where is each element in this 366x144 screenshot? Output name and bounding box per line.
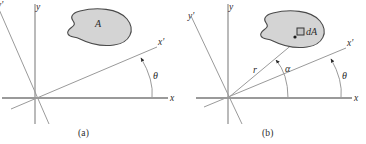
panel-a-y-prime-axis	[0, 7, 49, 124]
panel-b-y-axis-label: y	[228, 2, 234, 12]
panel-b-caption: (b)	[262, 128, 274, 138]
panel-b: y x x' y' dA r α θ	[187, 2, 359, 124]
panel-a-caption: (a)	[78, 128, 89, 138]
panel-b-x-axis-label: x	[353, 93, 359, 103]
panel-b-theta-arc	[331, 59, 341, 98]
panel-a-y-prime-axis-label: y'	[0, 0, 4, 10]
panel-a-theta-arc	[141, 58, 152, 98]
panel-a-theta-label: θ	[153, 70, 158, 81]
panel-a-x-axis-label: x	[169, 93, 175, 103]
panel-b-differential-area-square	[297, 28, 304, 35]
panel-a: y x x' y' A θ	[0, 0, 175, 124]
panel-a-y-axis-label: y	[35, 2, 41, 12]
panel-b-radius-label: r	[253, 64, 257, 75]
panel-a-area-label: A	[94, 18, 102, 29]
panel-b-theta-label: θ	[342, 70, 347, 81]
panel-b-y-prime-axis-label: y'	[187, 11, 195, 21]
panel-b-y-prime-axis	[191, 16, 242, 124]
panel-a-x-prime-axis	[11, 47, 157, 109]
figure-svg: y x x' y' A θ	[0, 0, 366, 144]
panel-b-differential-area-label: dA	[306, 26, 318, 37]
panel-b-point-marker	[293, 35, 296, 38]
figure-container: y x x' y' A θ	[0, 0, 366, 144]
panel-b-alpha-label: α	[285, 63, 291, 74]
panel-b-x-prime-axis-label: x'	[346, 38, 354, 48]
panel-a-x-prime-axis-label: x'	[157, 37, 165, 47]
